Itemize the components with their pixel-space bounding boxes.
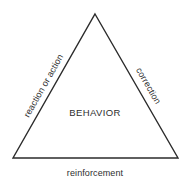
bottom-edge-label: reinforcement — [67, 169, 123, 178]
triangle-shape — [0, 0, 190, 188]
center-label: BEHAVIOR — [69, 108, 121, 118]
behavior-triangle-diagram: reaction or action correction reinforcem… — [0, 0, 190, 188]
